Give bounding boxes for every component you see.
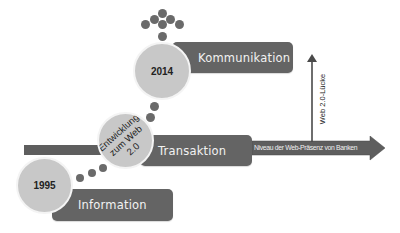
dot-decoration — [76, 174, 84, 182]
dot-decoration — [146, 113, 155, 122]
year-label: 1995 — [33, 180, 55, 191]
development-circle: Entwicklung zum Web 2.0 — [97, 112, 154, 169]
dot-decoration — [158, 32, 167, 41]
dot-decoration — [166, 15, 175, 24]
timeline-bar — [24, 145, 104, 155]
web-gap-label: Web 2.0-Lücke — [318, 64, 328, 134]
year-circle-2014: 2014 — [133, 42, 191, 100]
year-circle-1995: 1995 — [16, 157, 73, 214]
stage-label: Information — [78, 198, 147, 212]
stage-label: Kommunikation — [198, 51, 290, 65]
development-circle-text: Entwicklung zum Web 2.0 — [97, 112, 154, 169]
dot-decoration — [88, 169, 96, 177]
stage-label: Transaktion — [158, 144, 226, 158]
dot-decoration — [99, 164, 107, 172]
web-gap-arrow — [305, 54, 319, 144]
dot-decoration — [175, 20, 184, 29]
dot-decoration — [141, 20, 150, 29]
dot-decoration — [150, 102, 159, 111]
year-label: 2014 — [151, 66, 173, 77]
stage-box-transaktion: Transaktion — [140, 135, 252, 166]
